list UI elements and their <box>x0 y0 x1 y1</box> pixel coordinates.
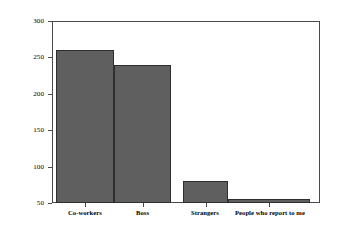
y-tick-label: 200 <box>14 90 44 98</box>
y-tick-label: 50 <box>14 199 44 207</box>
y-tick-label: 150 <box>14 126 44 134</box>
bar <box>56 50 114 203</box>
bar <box>114 65 171 203</box>
x-tick-mark <box>269 203 270 207</box>
y-tick-label: 100 <box>14 163 44 171</box>
bar-chart: Number of Responses 50100150200250300 Co… <box>0 0 338 229</box>
x-tick-mark <box>206 203 207 207</box>
x-tick-label: People who report to me <box>235 209 305 216</box>
x-tick-label: Strangers <box>191 209 219 216</box>
y-tick-label: 250 <box>14 53 44 61</box>
y-tick-mark <box>48 203 52 204</box>
bar-series <box>52 21 320 203</box>
x-tick-mark <box>85 203 86 207</box>
y-tick-label: 300 <box>14 17 44 25</box>
x-tick-label: Boss <box>136 209 149 216</box>
x-tick-mark <box>143 203 144 207</box>
bar <box>183 181 228 203</box>
x-tick-label: Co-workers <box>68 209 102 216</box>
